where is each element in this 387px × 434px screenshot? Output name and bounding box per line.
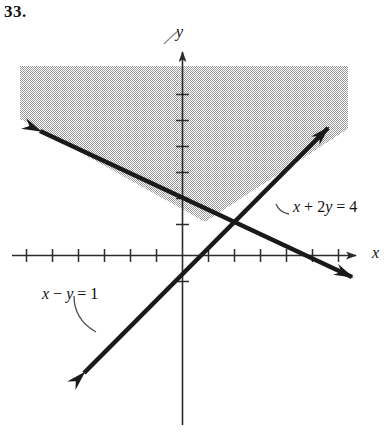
y-axis-label: y xyxy=(176,23,183,41)
problem-number: 33. xyxy=(4,2,27,22)
equation-label-x-plus-2y: x + 2y = 4 xyxy=(293,198,357,216)
inequality-graph xyxy=(0,0,387,434)
eq1-coefficient: 2 xyxy=(317,198,325,215)
x-axis-label: x xyxy=(372,244,379,262)
eq2-operator: − xyxy=(53,285,62,302)
eq1-var-y: y xyxy=(325,198,332,215)
eq1-operator: + xyxy=(304,198,313,215)
eq1-rhs: 4 xyxy=(349,198,357,215)
figure-background xyxy=(0,0,387,434)
eq1-equals: = xyxy=(336,198,345,215)
eq2-equals: = xyxy=(77,285,86,302)
eq2-rhs: 1 xyxy=(90,285,98,302)
eq2-var-x: x xyxy=(42,285,49,302)
eq2-var-y: y xyxy=(66,285,73,302)
equation-label-x-minus-y: x − y = 1 xyxy=(42,285,98,303)
